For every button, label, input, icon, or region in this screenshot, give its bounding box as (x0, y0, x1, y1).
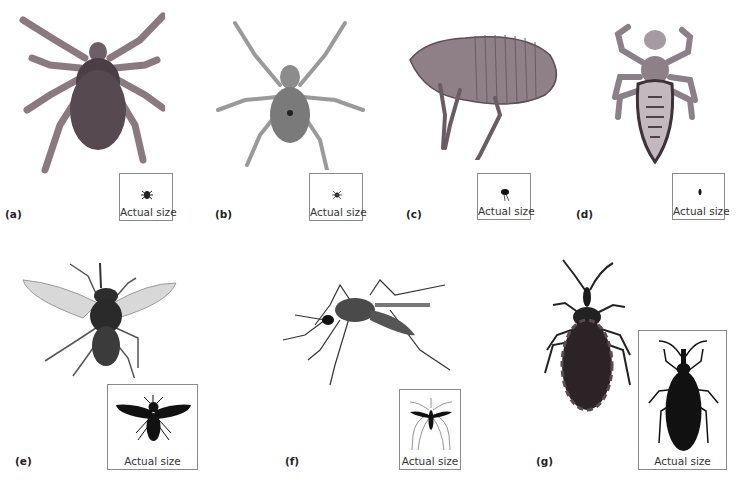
louse-illustration (610, 22, 700, 167)
panel-label: (g) (536, 455, 553, 467)
fly-illustration (18, 258, 183, 378)
actual-size-caption: Actual size (673, 205, 724, 217)
actual-size-box: Actual size (309, 173, 363, 221)
actual-size-caption: Actual size (478, 205, 530, 217)
actual-size-caption: Actual size (400, 455, 460, 467)
mite-illustration (215, 15, 365, 170)
panel-label: (a) (5, 208, 22, 220)
actual-size-caption: Actual size (120, 206, 172, 218)
actual-size-box: Actual size (107, 384, 198, 470)
panel-label: (b) (215, 208, 232, 220)
mosquito-illustration (280, 275, 455, 395)
actual-size-caption: Actual size (639, 455, 726, 467)
panel-label: (f) (285, 455, 299, 467)
panel-label: (e) (15, 455, 32, 467)
actual-size-box: Actual size (399, 389, 461, 470)
kissing-bug-illustration (535, 255, 640, 415)
panel-label: (d) (576, 208, 593, 220)
actual-size-caption: Actual size (108, 455, 197, 467)
actual-size-box: Actual size (119, 173, 173, 221)
actual-size-box: Actual size (477, 173, 531, 220)
tick-illustration (15, 10, 165, 175)
actual-size-box: Actual size (638, 330, 727, 470)
panel-label: (c) (406, 208, 422, 220)
flea-illustration (405, 30, 565, 160)
actual-size-box: Actual size (672, 173, 725, 220)
actual-size-caption: Actual size (310, 206, 362, 218)
kissing-bug-actual-size-icon (639, 331, 728, 471)
